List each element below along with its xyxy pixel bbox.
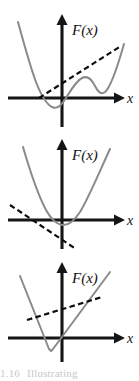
secant-line-3	[27, 297, 102, 320]
y-axis-label-3: F(x)	[71, 270, 98, 287]
secant-line-1	[39, 46, 121, 98]
plot-svg-1: F(x) x	[0, 0, 139, 127]
secant-line-2	[10, 205, 76, 249]
x-axis-label-2: x	[126, 213, 134, 228]
figure-container: F(x) x F(x) x	[0, 0, 139, 381]
plot-panel-2: F(x) x	[0, 127, 139, 254]
plot-panel-3: F(x) x	[0, 254, 139, 364]
y-axis-arrowhead	[57, 139, 68, 150]
x-axis-arrowhead	[114, 215, 125, 226]
plot-panel-1: F(x) x	[0, 0, 139, 127]
y-axis-label-2: F(x)	[71, 147, 98, 164]
y-axis-arrowhead	[57, 14, 68, 25]
y-axis-arrowhead	[57, 262, 68, 273]
plot-svg-3: F(x) x	[0, 254, 139, 364]
y-axis-label-1: F(x)	[71, 22, 98, 39]
caption-number: 1.16	[0, 367, 20, 379]
x-axis-arrowhead	[114, 333, 125, 344]
function-curve-1	[18, 22, 124, 108]
x-axis-label-1: x	[126, 91, 134, 106]
x-axis-label-3: x	[126, 331, 134, 346]
caption-text: Illustrating	[27, 367, 78, 379]
plot-svg-2: F(x) x	[0, 127, 139, 254]
figure-caption: 1.16Illustrating	[0, 366, 139, 381]
x-axis-arrowhead	[114, 93, 125, 104]
